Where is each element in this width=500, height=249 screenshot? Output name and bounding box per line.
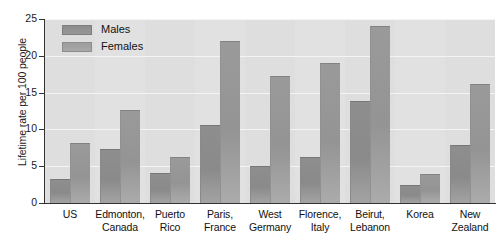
bar-females-6 [370, 26, 390, 203]
y-tick-mark [39, 129, 44, 130]
y-axis-line [44, 19, 45, 204]
y-tick-mark [39, 166, 44, 167]
y-tick-mark [39, 56, 44, 57]
y-axis-title: Lifetime rate per 100 people [16, 2, 28, 202]
bar-males-5 [300, 157, 320, 203]
bar-females-5 [320, 63, 340, 203]
x-axis-line [44, 203, 496, 204]
bar-males-2 [150, 173, 170, 203]
y-tick-label: 15 [3, 87, 37, 98]
x-axis-label-line1: New [439, 208, 500, 221]
bar-males-4 [250, 166, 270, 203]
legend-item-males: Males [62, 22, 192, 37]
chart-legend: Males Females [62, 22, 192, 56]
x-axis-label-line2: Zealand [439, 221, 500, 234]
bar-females-8 [470, 84, 490, 203]
y-tick-label: 25 [3, 13, 37, 24]
y-tick-mark [39, 203, 44, 204]
bar-females-0 [70, 143, 90, 203]
bar-males-7 [400, 185, 420, 203]
y-tick-label: 0 [3, 197, 37, 208]
bar-females-3 [220, 41, 240, 203]
bar-females-7 [420, 174, 440, 203]
y-tick-mark [39, 19, 44, 20]
legend-swatch-females-icon [62, 42, 92, 52]
legend-label-males: Males [101, 24, 130, 35]
x-axis-labels: USEdmonton,CanadaPuertoRicoParis,FranceW… [45, 208, 495, 248]
bar-females-2 [170, 157, 190, 203]
legend-label-females: Females [101, 41, 143, 52]
bar-females-1 [120, 110, 140, 203]
x-axis-label-line2: Lebanon [339, 221, 401, 234]
bar-males-8 [450, 145, 470, 203]
legend-swatch-males-icon [62, 25, 92, 35]
gridline [45, 19, 495, 20]
y-tick-label: 5 [3, 160, 37, 171]
bar-males-0 [50, 179, 70, 203]
y-tick-mark [39, 93, 44, 94]
bar-males-6 [350, 101, 370, 203]
bar-females-4 [270, 76, 290, 203]
bar-males-3 [200, 125, 220, 203]
bar-males-1 [100, 149, 120, 203]
x-axis-label-8: NewZealand [439, 208, 500, 233]
y-tick-label: 10 [3, 123, 37, 134]
legend-item-females: Females [62, 39, 192, 54]
y-tick-label: 20 [3, 50, 37, 61]
bar-chart: Lifetime rate per 100 people 0510152025 … [0, 0, 500, 249]
